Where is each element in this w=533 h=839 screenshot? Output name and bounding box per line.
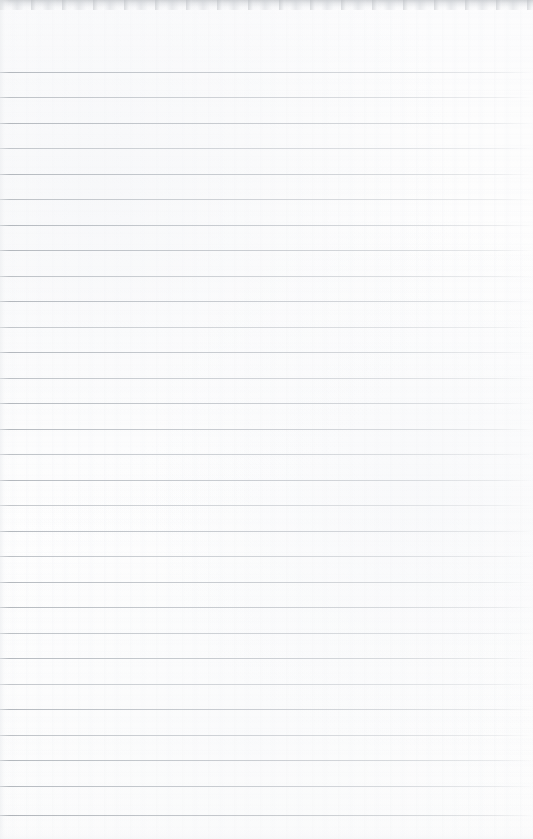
scanned-page bbox=[0, 0, 533, 839]
page-text-content bbox=[0, 0, 533, 839]
